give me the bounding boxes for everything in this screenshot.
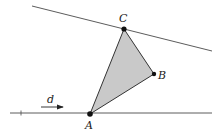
point-a <box>87 111 93 117</box>
point-c <box>121 26 126 31</box>
label-b: B <box>157 69 166 82</box>
label-a: A <box>84 119 93 132</box>
triangle-abc <box>90 29 154 114</box>
point-b <box>152 72 156 76</box>
label-d: d <box>47 93 54 106</box>
label-c: C <box>119 12 128 25</box>
triangle-diagram: A B C d <box>0 0 221 132</box>
diagram-svg: A B C d <box>0 0 221 132</box>
